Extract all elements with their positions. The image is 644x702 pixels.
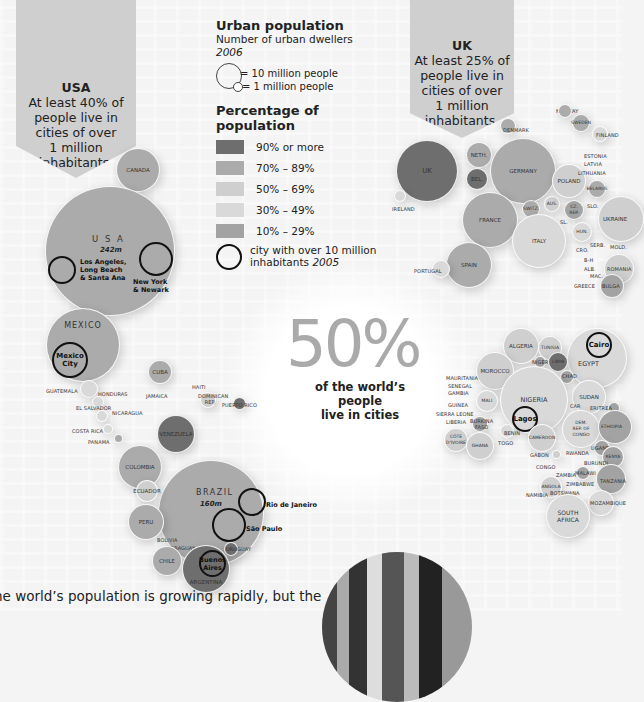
- label-portugal: PORTUGAL: [414, 268, 442, 274]
- swatch: [216, 140, 244, 154]
- swatch: [216, 224, 244, 238]
- label-burkina: BURKINAFASO: [470, 418, 493, 430]
- bubble-aus: AUS.: [544, 196, 560, 212]
- label-el-salvador: EL SALVADOR: [76, 405, 111, 411]
- label-ireland: IRELAND: [392, 206, 415, 212]
- bubble-drc: DEM.REP. OFCONGO: [562, 410, 600, 448]
- label: MOROCCO: [480, 368, 509, 374]
- label: ETHIOPIA: [601, 424, 622, 430]
- legend-city-line1: city with over 10 million: [250, 244, 376, 256]
- label-lithuania: LITHUANIA: [578, 170, 606, 176]
- headline-line: people: [300, 394, 420, 408]
- label-estonia: ESTONIA: [584, 153, 607, 159]
- label-uruguay: URUGUAY: [226, 546, 251, 552]
- label-sierra-leone: SIERRA LEONE: [436, 411, 474, 417]
- label: FRANCE: [479, 217, 501, 223]
- swatch: [216, 161, 244, 175]
- label: CHILE: [159, 558, 175, 564]
- label-togo: TOGO: [498, 440, 513, 446]
- usa-name: U S A: [92, 234, 125, 244]
- bubble-nicaragua: [96, 410, 108, 422]
- bubble-costa-rica: [103, 424, 113, 434]
- legend-city-line2: inhabitants: [250, 256, 309, 268]
- legend-label: 10% – 29%: [256, 225, 315, 237]
- size-label-10m: = 10 million people: [240, 68, 338, 79]
- legend-row-70: 70% – 89%: [216, 157, 396, 178]
- label-nicaragua: NICARAGUA: [112, 410, 143, 416]
- body-text: he world’s population is growing rapidly…: [0, 588, 321, 604]
- label: NETH.: [471, 152, 488, 158]
- label-guatemala: GUATEMALA: [46, 388, 78, 394]
- label-zimbabwe: ZIMBABWE: [566, 481, 594, 487]
- swatch: [216, 182, 244, 196]
- bubble-italy: ITALY: [512, 214, 566, 268]
- headline-value: 50%: [286, 312, 419, 376]
- label: ITALY: [532, 238, 546, 244]
- bubble-chile: CHILE: [152, 546, 182, 576]
- usa-banner-line: cities of over: [16, 125, 136, 140]
- uk-banner-line: people live in: [410, 68, 514, 83]
- legend-city-row: city with over 10 million inhabitants 20…: [216, 244, 396, 270]
- city-label-sao-paulo: São Paulo: [246, 525, 282, 533]
- city-cairo: Cairo: [586, 332, 612, 358]
- bubble-ethiopia: ETHIOPIA: [598, 410, 632, 444]
- legend-row-90: 90% or more: [216, 136, 396, 157]
- legend-subtitle: Number of urban dwellers: [216, 33, 396, 46]
- label-mac: MAC.: [590, 273, 603, 279]
- label-panama: PANAMA: [88, 439, 110, 445]
- label-mold: MOLD.: [610, 244, 627, 250]
- legend-row-30: 30% – 49%: [216, 199, 396, 220]
- label-senegal: SENEGAL: [448, 383, 472, 389]
- city-label-los-angeles: Los Angeles,Long Beach& Santa Ana: [80, 258, 126, 282]
- label-serb: SERB.: [590, 242, 605, 248]
- bubble-canada: CANADA: [116, 148, 160, 192]
- headline-caption: of the world’s people live in cities: [300, 380, 420, 422]
- city-circle-icon: [216, 244, 242, 270]
- usa-value: 242m: [100, 246, 122, 254]
- city-mexico-city: MexicoCity: [52, 342, 88, 378]
- legend-label: 90% or more: [256, 141, 324, 153]
- label-bulgaria: BULGA: [602, 283, 620, 289]
- label-sl: SL.: [560, 219, 568, 225]
- label-car: CAR: [570, 403, 581, 409]
- bubble-cameroon: CAMEROON: [528, 424, 556, 452]
- label-romania: ROMANIA: [607, 266, 631, 272]
- bubble-cuba: CUBA: [148, 360, 172, 384]
- headline-line: of the world’s: [300, 380, 420, 394]
- label: UK: [422, 168, 432, 174]
- label: GHANA: [472, 443, 488, 449]
- swatch: [216, 203, 244, 217]
- uk-banner-title: UK: [410, 38, 514, 53]
- label: SWITZ.: [523, 206, 539, 212]
- legend-label: 30% – 49%: [256, 204, 315, 216]
- label: LIBYA: [552, 359, 564, 365]
- bubble-neth: NETH.: [466, 142, 492, 168]
- label: PERU: [139, 519, 154, 525]
- label: BELARUS: [587, 186, 608, 192]
- bubble-gabon: [552, 450, 561, 459]
- bubble-mali: MALI: [476, 390, 498, 412]
- label-chad: CHAD: [562, 373, 577, 379]
- label-niger: NIGER: [532, 359, 548, 365]
- size-label-1m: = 1 million people: [242, 81, 333, 92]
- uk-banner-line: At least 25% of: [410, 53, 514, 68]
- label: MEXICO: [64, 323, 102, 329]
- label: VENEZUELA: [159, 431, 192, 437]
- bubble-ghana: GHANA: [466, 432, 494, 460]
- label: SWEDEN: [571, 120, 591, 126]
- legend: Urban population Number of urban dweller…: [216, 18, 396, 270]
- bubble-ecuador: ECUADOR: [136, 480, 158, 502]
- bubble-panama: [114, 434, 123, 443]
- brazil-value: 160m: [200, 500, 222, 508]
- slum-photo: [322, 552, 472, 702]
- label: TUNISIA: [541, 345, 559, 351]
- label-alb: ALB.: [584, 266, 596, 272]
- label-rwanda: RWANDA: [566, 450, 589, 456]
- label: BEL.: [471, 176, 483, 182]
- label: ALGERIA: [509, 343, 533, 349]
- label-namibia: NAMIBIA: [526, 492, 548, 498]
- bubble-ireland: [394, 190, 406, 202]
- label-finland: FINLAND: [596, 132, 619, 138]
- label-mauritania: MAURITANIA: [446, 375, 478, 381]
- label-bh: B-H: [584, 257, 593, 263]
